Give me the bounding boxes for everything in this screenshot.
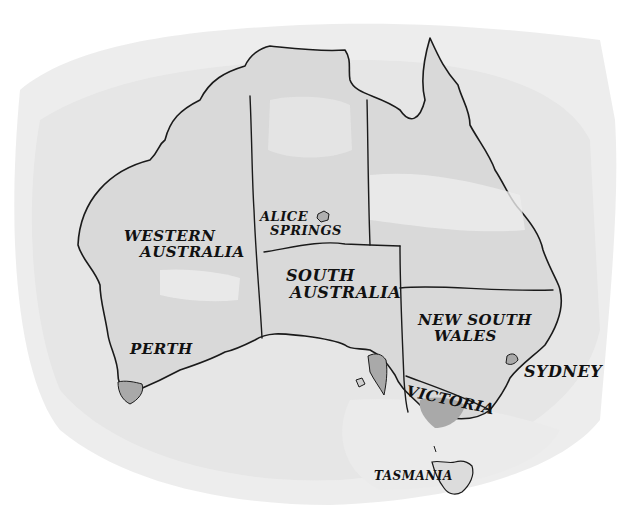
label-line: AUSTRALIA — [124, 245, 245, 261]
label-new-south-wales: NEW SOUTH WALES — [418, 313, 532, 345]
label-south-australia: SOUTH AUSTRALIA — [286, 268, 401, 302]
label-line: TASMANIA — [374, 470, 453, 483]
label-line: SYDNEY — [524, 364, 602, 381]
label-line: WALES — [418, 329, 532, 345]
label-line: SPRINGS — [260, 224, 342, 238]
label-perth: PERTH — [130, 342, 193, 358]
label-line: AUSTRALIA — [286, 285, 401, 302]
map-canvas: WESTERN AUSTRALIA ALICE SPRINGS SOUTH AU… — [0, 0, 627, 514]
label-alice-springs: ALICE SPRINGS — [260, 210, 342, 237]
label-tasmania: TASMANIA — [374, 470, 453, 483]
label-line: PERTH — [130, 342, 193, 358]
label-line: ALICE — [260, 210, 342, 224]
label-sydney: SYDNEY — [524, 364, 602, 381]
australia-map — [0, 0, 627, 514]
label-western-australia: WESTERN AUSTRALIA — [124, 229, 245, 261]
